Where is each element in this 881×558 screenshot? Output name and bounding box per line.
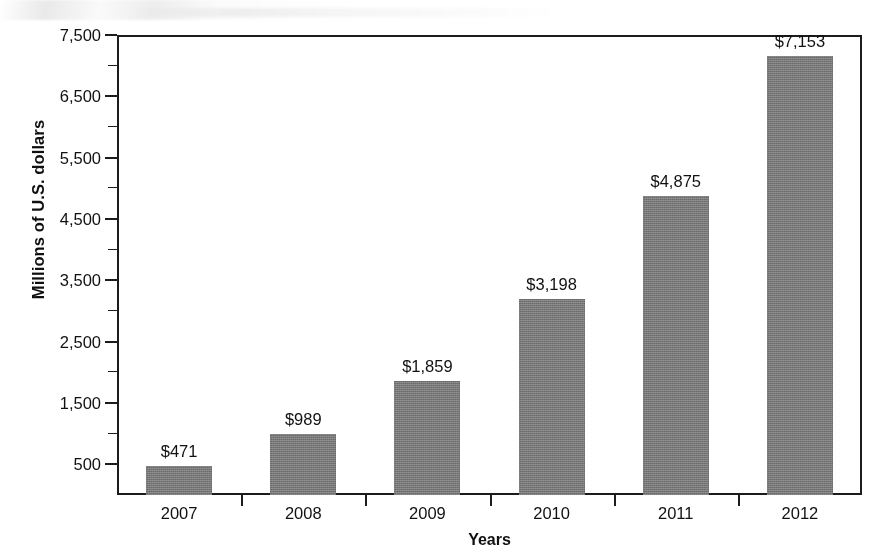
y-axis-tick-minor [108,310,117,311]
bar-value-label: $1,859 [347,357,507,376]
y-axis-tick-major [105,34,117,36]
y-axis-tick-label: 7,500 [1,26,101,45]
x-axis-tick-label: 2011 [616,504,736,523]
scan-artifact-streak [130,8,560,17]
bar-value-label: $4,875 [596,172,756,191]
scan-artifact [0,0,330,20]
y-axis-tick-major [105,218,117,220]
x-axis-tick-label: 2009 [367,504,487,523]
y-axis-tick-minor [108,371,117,372]
y-axis-tick-minor [108,433,117,434]
bar [519,299,585,495]
bar [146,466,212,495]
y-axis-tick-label: 4,500 [1,210,101,229]
x-axis-tick-label: 2010 [492,504,612,523]
y-axis-tick-major [105,279,117,281]
y-axis-tick-major [105,157,117,159]
bar [767,56,833,495]
y-axis-tick-label: 1,500 [1,394,101,413]
bar [394,381,460,495]
bar-chart: Millions of U.S. dollars 5001,5002,5003,… [0,0,881,558]
y-axis-tick-label: 3,500 [1,271,101,290]
bar [643,196,709,495]
x-axis-tick-label: 2008 [243,504,363,523]
y-axis-tick-label: 6,500 [1,87,101,106]
y-axis-tick-major [105,463,117,465]
x-axis-tick-label: 2007 [119,504,239,523]
y-axis-tick-label: 5,500 [1,148,101,167]
bar-value-label: $471 [99,442,259,461]
y-axis-tick-major [105,341,117,343]
y-axis-tick-label: 2,500 [1,332,101,351]
y-axis-tick-label: 500 [1,455,101,474]
x-axis-title: Years [117,531,862,549]
y-axis-tick-minor [108,126,117,127]
bar-value-label: $7,153 [720,32,880,51]
y-axis-tick-minor [108,249,117,250]
y-axis-tick-major [105,95,117,97]
bar-value-label: $3,198 [472,275,632,294]
bar [270,434,336,495]
x-axis-tick-label: 2012 [740,504,860,523]
bar-value-label: $989 [223,410,383,429]
y-axis-tick-minor [108,65,117,66]
y-axis-tick-minor [108,187,117,188]
y-axis-tick-major [105,402,117,404]
